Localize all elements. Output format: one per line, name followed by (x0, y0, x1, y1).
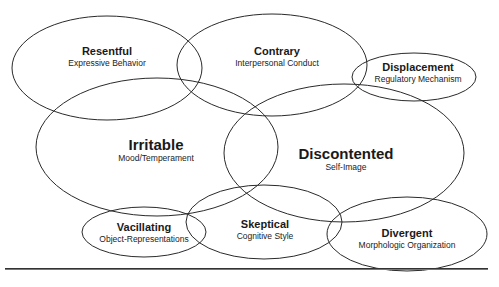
label-resentful: Resentful Expressive Behavior (68, 46, 145, 68)
subtitle-resentful: Expressive Behavior (68, 58, 145, 68)
label-contrary: Contrary Interpersonal Conduct (235, 46, 319, 68)
label-displacement: Displacement Regulatory Mechanism (375, 62, 462, 84)
subtitle-contrary: Interpersonal Conduct (235, 58, 319, 68)
subtitle-discontented: Self-Image (298, 162, 393, 172)
subtitle-irritable: Mood/Temperament (118, 153, 194, 163)
subtitle-displacement: Regulatory Mechanism (375, 74, 462, 84)
title-irritable: Irritable (118, 137, 194, 153)
label-vacillating: Vacillating Object-Representations (99, 222, 188, 244)
label-divergent: Divergent Morphologic Organization (359, 228, 456, 250)
title-vacillating: Vacillating (99, 222, 188, 234)
title-divergent: Divergent (359, 228, 456, 240)
subtitle-divergent: Morphologic Organization (359, 240, 456, 250)
title-contrary: Contrary (235, 46, 319, 58)
title-discontented: Discontented (298, 146, 393, 162)
label-irritable: Irritable Mood/Temperament (118, 137, 194, 163)
title-displacement: Displacement (375, 62, 462, 74)
label-skeptical: Skeptical Cognitive Style (237, 219, 294, 241)
title-resentful: Resentful (68, 46, 145, 58)
ellipse-resentful (12, 16, 202, 120)
title-skeptical: Skeptical (237, 219, 294, 231)
subtitle-vacillating: Object-Representations (99, 234, 188, 244)
subtitle-skeptical: Cognitive Style (237, 231, 294, 241)
bottom-rule-divider (5, 268, 488, 270)
label-discontented: Discontented Self-Image (298, 146, 393, 172)
